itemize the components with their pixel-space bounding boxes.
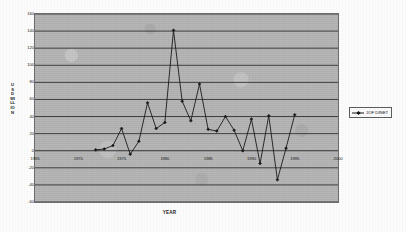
legend-label: JOF DINET xyxy=(366,110,388,115)
y-tick-label: 20 xyxy=(8,132,34,136)
plot-area xyxy=(34,13,339,203)
x-tick-label: 1980 xyxy=(160,157,169,161)
x-tick-label: 1985 xyxy=(204,157,213,161)
y-tick-label: 100 xyxy=(8,63,34,67)
y-tick-label: 140 xyxy=(8,29,34,33)
y-axis-title: USDMILLION xyxy=(8,83,17,115)
y-tick-label: 160 xyxy=(8,12,34,16)
x-axis-title: YEAR xyxy=(0,210,339,215)
y-axis-title-char: N xyxy=(8,111,17,116)
x-tick-label: 1975 xyxy=(117,157,126,161)
legend-marker-icon xyxy=(352,110,364,115)
y-tick-label: 120 xyxy=(8,46,34,50)
y-tick-label: -40 xyxy=(8,183,34,187)
y-tick-label: -20 xyxy=(8,166,34,170)
x-tick-label: 2000 xyxy=(334,157,343,161)
scanned-chart-page: -60-40-20020406080100120140160 USDMILLIO… xyxy=(0,0,406,232)
x-tick-label: 1995 xyxy=(290,157,299,161)
line-chart-canvas xyxy=(35,14,338,202)
y-tick-label: 0 xyxy=(8,149,34,153)
chart-legend[interactable]: JOF DINET xyxy=(349,107,392,118)
x-tick-label: 1970 xyxy=(74,157,83,161)
x-tick-label: 1990 xyxy=(247,157,256,161)
x-axis-tick-labels: 19651970197519801985199019952000 xyxy=(34,157,339,165)
x-tick-label: 1965 xyxy=(31,157,40,161)
y-tick-label: -60 xyxy=(8,200,34,204)
